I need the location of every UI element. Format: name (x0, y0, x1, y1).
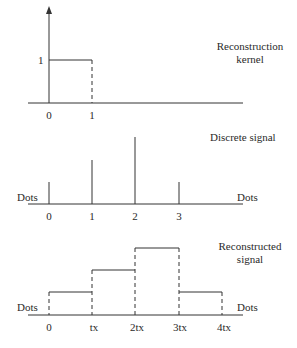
x-tick: 1 (89, 109, 95, 121)
x-tick: tx (90, 321, 99, 333)
reconstructed-title-line1: Reconstructed (219, 240, 282, 253)
x-tick: 0 (46, 321, 52, 333)
kernel-title-line2: kernel (217, 53, 284, 66)
dots-left-label: Dots (17, 191, 38, 203)
x-tick: 3tx (173, 321, 187, 333)
discrete-title: Discrete signal (210, 131, 276, 143)
x-tick: 2tx (130, 321, 144, 333)
x-tick: 0 (46, 210, 52, 222)
kernel-title-line1: Reconstruction (217, 40, 284, 53)
x-tick: 3 (176, 210, 182, 222)
dots-right-label: Dots (237, 191, 258, 203)
reconstructed-title: Reconstructed signal (219, 240, 282, 266)
reconstructed-plot (28, 248, 243, 315)
x-tick: 4tx (217, 321, 231, 333)
dots-right-label: Dots (237, 301, 258, 313)
x-tick: 2 (132, 210, 138, 222)
kernel-plot (28, 6, 243, 103)
x-tick: 1 (89, 210, 95, 222)
arrow-up-icon (46, 6, 52, 14)
x-tick: 0 (46, 109, 52, 121)
kernel-title: Reconstruction kernel (217, 40, 284, 66)
dots-left-label: Dots (17, 301, 38, 313)
reconstructed-title-line2: signal (219, 253, 282, 266)
discrete-plot (28, 137, 243, 204)
y-tick-1: 1 (38, 54, 44, 66)
